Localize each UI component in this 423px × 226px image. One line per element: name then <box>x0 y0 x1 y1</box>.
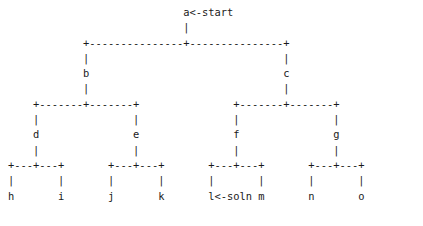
tree-line-root-stem: | <box>8 20 365 35</box>
tree-line-level3-stems: | | | | <box>8 112 365 127</box>
tree-line-level2-labels: b c <box>8 66 365 81</box>
tree-line-leaf-stems: | | | | | | | | <box>8 173 365 188</box>
tree-line-level1-connector: +---------------+---------------+ <box>8 36 365 51</box>
tree-line-level2-stems: | | <box>8 51 365 66</box>
tree-line-level3-connectors: +---+---+ +---+---+ +---+---+ +---+---+ <box>8 158 365 173</box>
tree-line-level2-connectors: +-------+-------+ +-------+-------+ <box>8 97 365 112</box>
tree-line-root-label: a<-start <box>8 5 365 20</box>
tree-line-level3-labels: d e f g <box>8 127 365 142</box>
tree-line-level3-down-stems: | | | | <box>8 143 365 158</box>
ascii-tree-diagram: a<-start | +---------------+------------… <box>8 5 365 204</box>
tree-line-leaf-labels: h i j k l<-soln m n o <box>8 189 365 204</box>
tree-line-level2-down-stems: | | <box>8 81 365 96</box>
